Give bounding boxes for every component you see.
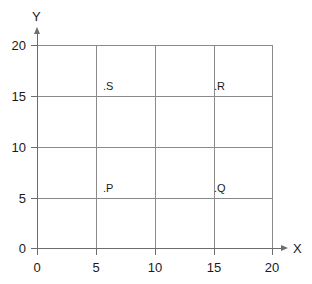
x-ticklabel-20: 20 <box>257 261 287 274</box>
x-tick-15 <box>214 249 215 255</box>
data-point-label-r: .R <box>214 81 225 92</box>
y-ticklabel-10: 10 <box>0 141 26 154</box>
x-ticklabel-0: 0 <box>22 261 52 274</box>
x-tick-5 <box>96 249 97 255</box>
y-tick-20 <box>31 45 38 46</box>
y-ticklabel-20: 20 <box>0 39 26 52</box>
coordinate-grid-chart: 20 15 10 5 0 0 5 10 15 20 Y X .S .R .P .… <box>0 0 312 284</box>
y-tick-5 <box>31 198 38 199</box>
gridline-x-5 <box>96 45 97 249</box>
x-tick-10 <box>155 249 156 255</box>
data-point-label-p: .P <box>103 183 113 194</box>
y-axis-arrow-icon <box>34 27 40 34</box>
y-ticklabel-5: 5 <box>0 192 26 205</box>
y-ticklabel-0: 0 <box>0 242 26 255</box>
y-axis-title: Y <box>32 10 41 23</box>
y-ticklabel-15: 15 <box>0 90 26 103</box>
y-axis-line <box>37 33 38 249</box>
x-ticklabel-15: 15 <box>199 261 229 274</box>
x-axis-line <box>37 248 285 249</box>
x-ticklabel-5: 5 <box>81 261 111 274</box>
y-tick-10 <box>31 147 38 148</box>
x-ticklabel-10: 10 <box>140 261 170 274</box>
x-axis-title: X <box>293 242 302 255</box>
x-axis-arrow-icon <box>281 245 288 251</box>
data-point-label-q: .Q <box>214 183 226 194</box>
gridline-x-15 <box>214 45 215 249</box>
x-tick-0 <box>37 249 38 255</box>
data-point-label-s: .S <box>103 81 113 92</box>
gridline-x-20 <box>272 45 273 249</box>
x-tick-20 <box>272 249 273 255</box>
y-tick-15 <box>31 96 38 97</box>
gridline-x-10 <box>155 45 156 249</box>
